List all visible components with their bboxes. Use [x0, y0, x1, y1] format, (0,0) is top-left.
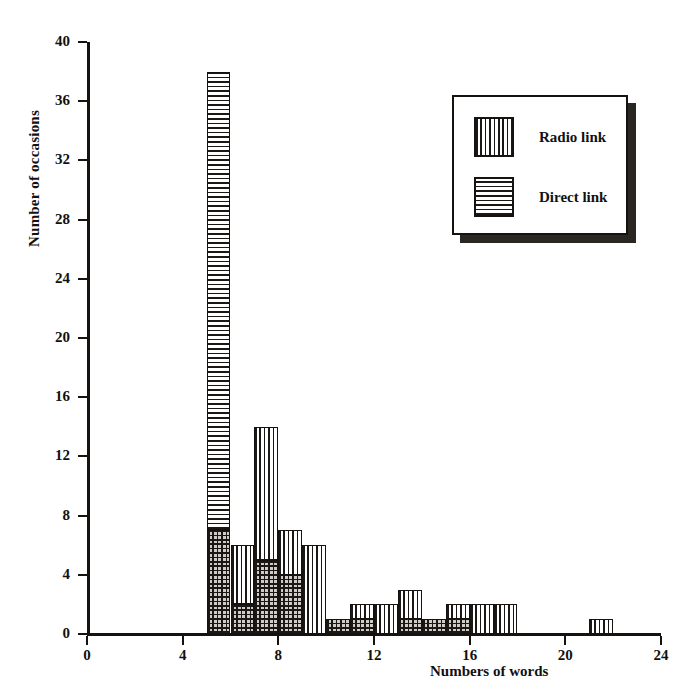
bar-segment-direct-link	[207, 530, 231, 634]
bar-segment-radio-link	[494, 604, 518, 634]
bar-segment-radio-link	[446, 604, 470, 619]
y-axis-tick	[78, 159, 87, 161]
bar-segment-radio-link	[398, 590, 422, 620]
bar-segment-radio-link	[254, 427, 278, 560]
bar-segment-direct-link	[398, 619, 422, 634]
y-axis-tick-label: 20	[36, 330, 70, 345]
y-axis-tick-label: 32	[36, 152, 70, 167]
x-axis-tick-label: 8	[258, 648, 298, 663]
y-axis-tick-label: 36	[36, 93, 70, 108]
bar-segment-radio-link	[302, 545, 326, 634]
bar-segment-direct-link	[278, 575, 302, 634]
bar-segment-radio-link	[589, 619, 613, 634]
x-axis-tick-label: 4	[163, 648, 203, 663]
y-axis-tick-label: 24	[36, 271, 70, 286]
y-axis-tick-label: 8	[36, 508, 70, 523]
legend-entry-radio-link: Radio link	[474, 117, 606, 157]
y-axis-tick-label: 4	[36, 567, 70, 582]
bar-segment-radio-link	[278, 530, 302, 574]
legend-swatch-radio-link-icon	[474, 117, 514, 157]
bar-segment-direct-link	[231, 604, 255, 634]
y-axis-tick-label: 12	[36, 448, 70, 463]
bar-segment-radio-link	[374, 604, 398, 634]
legend-entry-direct-link: Direct link	[474, 177, 607, 217]
x-axis-tick-label: 12	[354, 648, 394, 663]
x-axis-tick-label: 20	[545, 648, 585, 663]
x-axis-tick-label: 16	[450, 648, 490, 663]
y-axis-tick	[78, 633, 87, 635]
bar-segment-radio-link	[231, 545, 255, 604]
y-axis-tick	[78, 337, 87, 339]
y-axis-tick	[78, 219, 87, 221]
y-axis-tick-label: 40	[36, 34, 70, 49]
y-axis-tick	[78, 100, 87, 102]
x-axis-tick	[373, 636, 375, 645]
legend-label-direct-link: Direct link	[539, 189, 607, 206]
chart-figure: Number of occasions 0481216202428323640 …	[0, 0, 693, 696]
legend-label-radio-link: Radio link	[539, 129, 606, 146]
y-axis-tick-label: 16	[36, 389, 70, 404]
x-axis-tick	[86, 636, 88, 645]
bar-segment-direct-link	[446, 619, 470, 634]
bar-segment-direct-link	[422, 619, 446, 634]
bar-segment-radio-link	[470, 604, 494, 634]
y-axis-tick	[78, 574, 87, 576]
y-axis-tick-label: 28	[36, 212, 70, 227]
bar-segment-direct-link	[326, 619, 350, 634]
y-axis-tick-label: 0	[36, 626, 70, 641]
y-axis-tick	[78, 396, 87, 398]
x-axis-tick	[660, 636, 662, 645]
bar-segment-radio-link	[207, 72, 231, 531]
legend-swatch-direct-link-icon	[474, 177, 514, 217]
x-axis-tick	[469, 636, 471, 645]
y-axis-tick	[78, 455, 87, 457]
y-axis-tick	[78, 41, 87, 43]
bar-segment-radio-link	[350, 604, 374, 619]
x-axis-tick-label: 0	[67, 648, 107, 663]
x-axis-tick-label: 24	[641, 648, 681, 663]
bar-segment-direct-link	[254, 560, 278, 634]
bar-segment-direct-link	[350, 619, 374, 634]
x-axis-tick	[564, 636, 566, 645]
x-axis-tick	[182, 636, 184, 645]
y-axis-tick	[78, 515, 87, 517]
x-axis-label: Numbers of words	[430, 663, 548, 680]
y-axis-tick	[78, 278, 87, 280]
legend: Radio link Direct link	[452, 95, 628, 235]
x-axis-tick	[277, 636, 279, 645]
